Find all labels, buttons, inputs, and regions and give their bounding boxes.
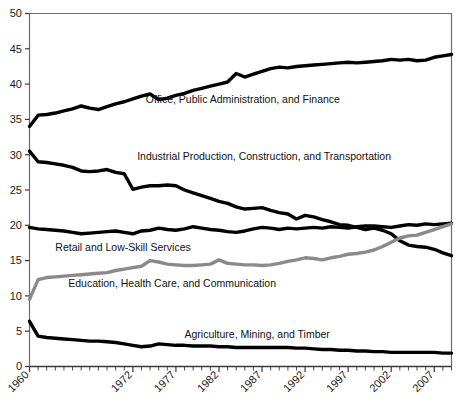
series-label: Retail and Low-Skill Services	[55, 241, 190, 253]
y-tick-label: 5	[16, 325, 22, 337]
y-tick-label: 20	[10, 219, 22, 231]
y-tick-label: 45	[10, 43, 22, 55]
series-label: Office, Public Administration, and Finan…	[146, 93, 340, 105]
y-tick-label: 15	[10, 254, 22, 266]
y-tick-label: 25	[10, 184, 22, 196]
series-label: Agriculture, Mining, and Timber	[185, 328, 331, 340]
chart-canvas: 05101520253035404550 1960197219771982198…	[0, 0, 456, 403]
y-tick-label: 35	[10, 113, 22, 125]
y-tick-label: 30	[10, 149, 22, 161]
y-tick-label: 50	[10, 7, 22, 19]
series-label: Education, Health Care, and Communicatio…	[68, 277, 276, 289]
y-tick-label: 40	[10, 78, 22, 90]
y-tick-label: 10	[10, 290, 22, 302]
series-label: Industrial Production, Construction, and…	[137, 150, 391, 162]
line-chart: 05101520253035404550 1960197219771982198…	[0, 0, 456, 403]
